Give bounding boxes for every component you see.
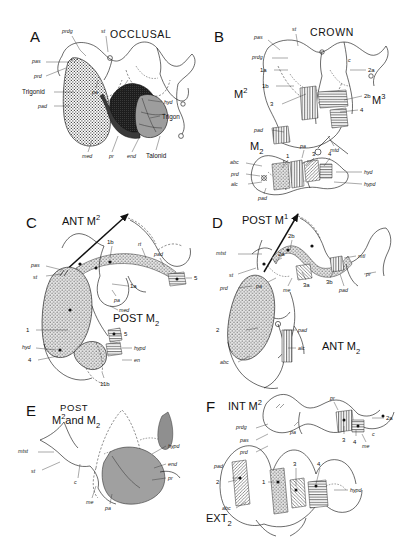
label-f-1: 1 <box>262 479 266 485</box>
label-b-3: 3 <box>270 101 274 107</box>
label-med: med <box>82 153 93 159</box>
figure-svg: A OCCLUSAL prdg s <box>0 0 401 550</box>
label-f-prdg: prdg <box>235 424 247 430</box>
tooth-title-b-m2: M2 <box>234 86 247 100</box>
label-e-hypd: hypd <box>168 443 181 449</box>
label-b-prd: prd <box>230 171 240 177</box>
label-b-pad: pad <box>253 127 264 133</box>
label-f-prd: prd <box>239 449 249 455</box>
label-c-pa: pa <box>113 297 120 303</box>
tooth-title-f-int: INT M2 <box>228 398 262 412</box>
label-c-5b: 5 <box>124 331 128 337</box>
label-c-4: 4 <box>28 357 32 363</box>
panel-d: D POST M1 ANT M2 mtst st <box>212 212 391 389</box>
panel-a-title: OCCLUSAL <box>110 28 171 40</box>
label-f-pr: pr <box>329 395 335 401</box>
label-d-pr: pr <box>365 271 371 277</box>
label-f-3-up: 3 <box>342 437 346 443</box>
label-end: end <box>127 153 137 159</box>
tooth-title-f-ext: EXT2 <box>206 512 232 528</box>
label-b-hypd: hypd <box>364 181 377 187</box>
label-pr: pr <box>108 153 114 159</box>
tooth-title-b-m2-lower: M2 <box>250 140 263 156</box>
label-f-4-up: 4 <box>353 439 357 445</box>
panel-e: E POST M2and M2 mtst st c me pa <box>18 402 181 511</box>
label-d-3a: 3a <box>303 282 310 288</box>
tooth-title-b-m3: M3 <box>372 92 385 106</box>
panel-b-title: CROWN <box>310 26 354 38</box>
label-d-pad2: pad <box>297 327 308 333</box>
label-c-pas: pas <box>30 262 40 268</box>
label-f-3-low: 3 <box>293 461 297 467</box>
label-b-st: st <box>292 26 297 32</box>
label-b-4: 4 <box>360 107 364 113</box>
tooth-title-c-ant: ANT M2 <box>62 213 100 227</box>
panel-c-letter: C <box>26 214 37 231</box>
tooth-title-d-ant: ANT M2 <box>322 340 360 356</box>
label-b-prdg: prdg <box>251 54 263 60</box>
label-prdg: prdg <box>61 28 73 34</box>
label-trigonid: Trigonid <box>22 88 45 96</box>
label-e-c: c <box>74 479 77 485</box>
label-talonid: Talonid <box>146 152 167 159</box>
label-e-st: st <box>31 468 36 474</box>
label-b-pad2: pad <box>257 195 268 201</box>
label-f-pa: pa <box>289 429 296 435</box>
label-d-pa: pa <box>255 283 262 289</box>
label-e-mtst: mtst <box>18 448 29 454</box>
label-b-1-lower: 1 <box>286 153 290 159</box>
label-c-pad: pad <box>153 251 164 257</box>
label-pad: pad <box>37 103 48 109</box>
label-c-1b: 1b <box>107 239 114 245</box>
panel-b-letter: B <box>214 28 224 45</box>
panel-f: F INT M2 EXT2 <box>206 394 394 536</box>
panel-a: A OCCLUSAL prdg s <box>22 28 195 159</box>
panel-d-letter: D <box>212 214 223 231</box>
tooth-title-c-post: POST M2 <box>113 312 159 328</box>
label-d-pad: pad <box>338 287 349 293</box>
label-f-pas: pas <box>239 437 249 443</box>
panel-a-letter: A <box>30 28 40 45</box>
label-e-end: end <box>168 461 178 467</box>
label-c-1: 1 <box>26 327 30 333</box>
label-d-2b: 2b <box>288 233 295 239</box>
label-d-mtst: mtst <box>216 250 227 256</box>
label-prd: prd <box>33 73 43 79</box>
label-b-abc: abc <box>230 159 239 165</box>
label-b-alc: alc <box>231 181 238 187</box>
label-b-c: c <box>348 57 351 63</box>
label-f-hypd: hypd <box>350 487 363 493</box>
label-hyd: hyd <box>164 99 174 105</box>
label-f-2: 2 <box>216 479 220 485</box>
label-b-1a: 1a <box>260 67 267 73</box>
label-pas: pas <box>31 58 41 64</box>
label-c-5: 5 <box>194 275 198 281</box>
label-c-rt: rt <box>138 241 142 247</box>
label-d-mtl: mtl <box>358 253 366 259</box>
label-d-alc: alc <box>298 345 305 351</box>
label-d-prd: prd <box>219 285 229 291</box>
label-b-hyd: hyd <box>364 169 374 175</box>
label-b-pa: pa <box>299 143 306 149</box>
label-c-st: st <box>33 274 38 280</box>
label-e-me: me <box>86 499 93 505</box>
label-b-2a: 2a <box>368 67 375 73</box>
label-d-st: st <box>229 272 234 278</box>
label-c-hyd: hyd <box>22 344 32 350</box>
panel-c: C ANT M2 POST M2 <box>22 213 198 387</box>
label-f-2a: 2a <box>386 415 393 421</box>
label-c-1a: 1a <box>130 283 137 289</box>
label-me: me <box>119 87 126 93</box>
label-pa: pa <box>91 89 98 95</box>
label-trigon: Trigon <box>162 113 180 121</box>
label-b-2b: 2b <box>364 93 371 99</box>
label-d-me: me <box>283 287 290 293</box>
label-d-2: 2 <box>216 327 220 333</box>
panel-e-letter: E <box>26 402 36 419</box>
label-st: st <box>101 28 106 34</box>
label-d-2a: 2a <box>278 251 285 257</box>
label-b-pas: pas <box>253 34 263 40</box>
label-e-pa: pa <box>104 505 111 511</box>
label-f-pad: pad <box>213 463 224 469</box>
label-d-abc: abc <box>220 359 229 365</box>
